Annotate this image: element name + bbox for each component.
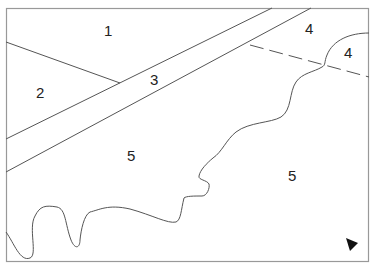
region-label-4-upper: 4 (305, 20, 313, 37)
map-canvas: 1 2 3 4 4 5 5 (0, 0, 373, 267)
region-label-2: 2 (36, 84, 44, 101)
region-label-3: 3 (150, 71, 158, 88)
map-border (7, 9, 369, 262)
region-label-5-lower: 5 (288, 167, 296, 184)
region-label-1: 1 (104, 22, 112, 39)
region-label-5-upper: 4 (344, 44, 352, 61)
region-label-4-lower: 5 (127, 147, 135, 164)
